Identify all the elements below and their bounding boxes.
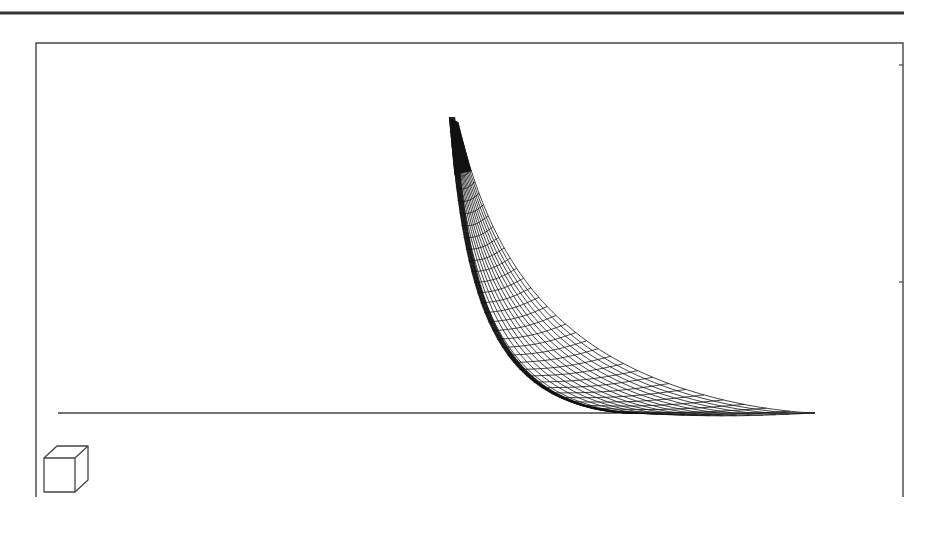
plot-frame	[36, 43, 903, 497]
surface-plot-figure	[0, 0, 939, 535]
figure-canvas	[0, 0, 939, 535]
orientation-cube-icon	[44, 446, 88, 492]
wireframe-surface-mesh	[449, 117, 815, 416]
